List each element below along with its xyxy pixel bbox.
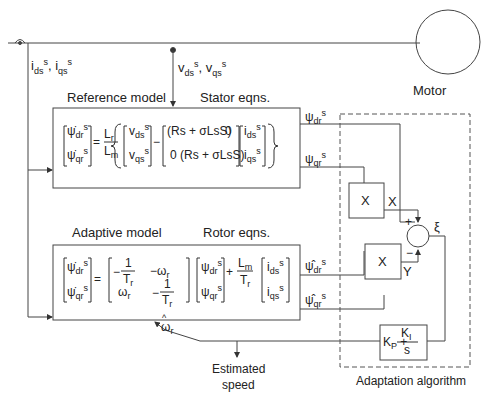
psi-dr-vec: ψdrs: [201, 260, 222, 274]
multiplier-2: X: [378, 254, 387, 269]
zero-1: 0: [225, 124, 232, 138]
error-xi: ξ: [434, 219, 440, 234]
psi-dr-ref-label: ψdrs: [305, 110, 326, 124]
vds: vdss: [129, 124, 149, 138]
minus: −: [153, 135, 160, 149]
ref-psi-dot-dr: ψ̇drs: [67, 124, 88, 138]
adaptation-algorithm-label: Adaptation algorithm: [356, 374, 466, 388]
iqs-b: iqss: [267, 285, 284, 299]
voltages-label: vdss, vqss: [178, 60, 226, 75]
currents-label: idss, iqss: [31, 58, 72, 73]
minus-omega: −ωr: [150, 264, 169, 278]
zero-2: 0: [170, 148, 177, 162]
sum-minus: −: [406, 246, 413, 260]
stator-eqns-label: Stator eqns.: [200, 90, 270, 105]
ids-b: idss: [267, 260, 284, 274]
Tr-b: Tr: [162, 293, 172, 307]
speed-label: speed: [222, 378, 255, 392]
hat-mark: ^: [162, 313, 166, 323]
rs-term-2: (Rs + σLsS): [180, 148, 244, 162]
Tr-a: Tr: [123, 272, 133, 286]
motor-label: Motor: [413, 83, 446, 98]
plus: +: [226, 265, 233, 279]
vqs: vqss: [129, 148, 149, 162]
adp-psi-dot-qr: ψ̇qrs: [67, 285, 88, 299]
one-b: 1: [164, 277, 171, 291]
rs-term-1: (Rs + σLsS): [167, 124, 231, 138]
Lm-b: Lm: [238, 256, 252, 270]
adaptive-model-title: Adaptive model: [72, 225, 162, 240]
rotor-eqns-label: Rotor eqns.: [203, 225, 270, 240]
psi-qr-vec: ψqrs: [201, 285, 222, 299]
Tr-c: Tr: [240, 273, 250, 287]
equals-2: =: [94, 272, 101, 286]
equals: =: [93, 135, 100, 149]
sum-plus: +: [405, 215, 412, 229]
psi-qr-ref-label: ψqrs: [305, 152, 326, 166]
Lm: Lm: [104, 144, 118, 158]
one-a: 1: [125, 256, 132, 270]
ki-term: KI: [401, 326, 412, 340]
reference-model-title: Reference model: [67, 90, 166, 105]
x-output-label: X: [388, 194, 397, 209]
omega-r: ωr: [118, 285, 130, 299]
y-output-label: Y: [403, 264, 412, 279]
ids: idss: [244, 124, 261, 138]
minus-a: −: [113, 265, 120, 279]
s-term: s: [404, 343, 410, 357]
iqs: iqss: [244, 148, 261, 162]
estimated-label: Estimated: [212, 362, 265, 376]
psi-hat-dr-label: ψ̂drs: [305, 259, 326, 273]
multiplier-1: X: [361, 193, 370, 208]
ref-psi-dot-qr: ψ̇qrs: [67, 148, 88, 162]
Lr: Lr: [104, 127, 114, 141]
psi-hat-qr-label: ψ̂qrs: [305, 293, 326, 307]
adp-psi-dot-dr: ψ̇drs: [67, 260, 88, 274]
minus-b: −: [152, 286, 159, 300]
